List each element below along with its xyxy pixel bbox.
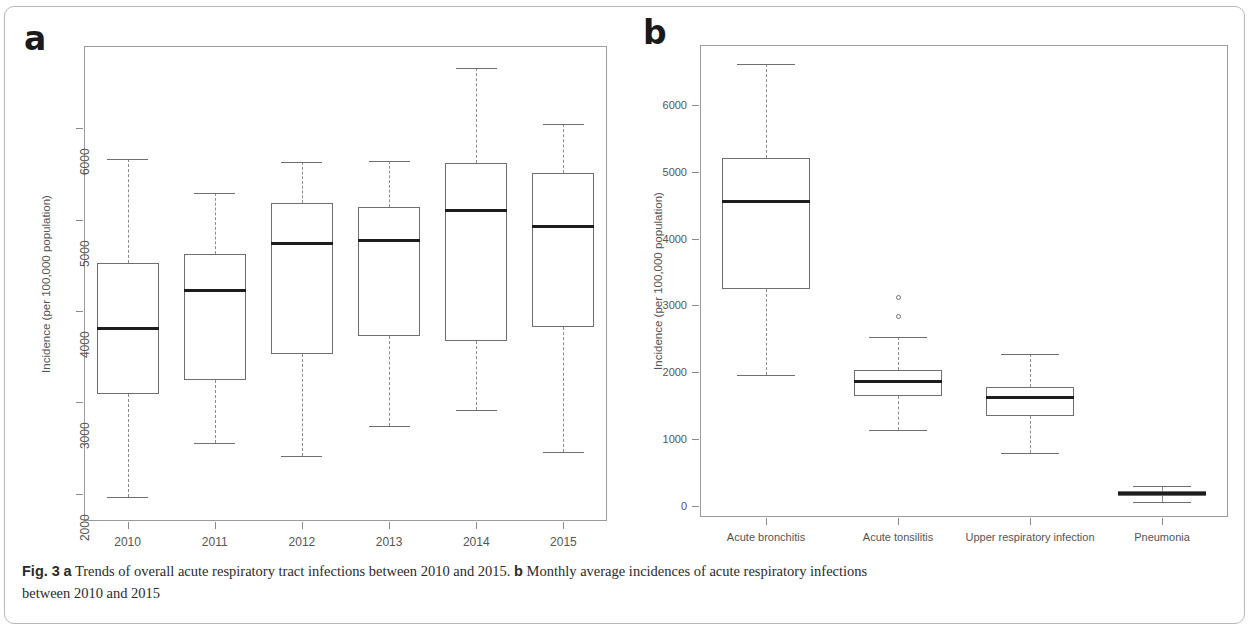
- figure-caption: Fig. 3 a Trends of overall acute respira…: [22, 560, 1227, 605]
- y-tick-mark: [76, 311, 83, 312]
- panel-b-letter: b: [643, 16, 667, 49]
- median-line: [854, 380, 942, 383]
- y-tick-mark: [692, 239, 699, 240]
- x-tick-mark: [1030, 518, 1031, 525]
- box: [445, 163, 507, 341]
- whisker-cap-upper: [543, 124, 584, 125]
- x-tick-label: 2012: [289, 535, 316, 549]
- caption-marker-a: a: [64, 563, 72, 579]
- median-line: [184, 289, 246, 292]
- whisker-cap-upper: [281, 162, 322, 163]
- whisker-upper: [389, 161, 390, 207]
- caption-line-2: between 2010 and 2015: [22, 582, 1227, 604]
- box: [358, 207, 420, 337]
- whisker-upper: [1030, 354, 1031, 387]
- whisker-cap-lower: [737, 375, 795, 376]
- outlier-point: [896, 295, 901, 300]
- whisker-lower: [389, 336, 390, 426]
- y-tick-mark: [76, 128, 83, 129]
- x-tick-label: 2014: [463, 535, 490, 549]
- y-tick-label: 3000: [663, 299, 687, 311]
- x-tick-mark: [302, 522, 303, 529]
- median-line: [532, 225, 594, 228]
- whisker-cap-upper: [456, 68, 497, 69]
- whisker-cap-lower: [456, 410, 497, 411]
- figure-3: a Incidence (per 100,000 population) 200…: [0, 0, 1251, 630]
- x-tick-label: Acute tonsilitis: [863, 531, 933, 543]
- median-line: [358, 239, 420, 242]
- y-axis-title: Incidence (per 100,000 population): [652, 192, 664, 370]
- y-tick-mark: [692, 305, 699, 306]
- whisker-cap-lower: [1133, 502, 1191, 503]
- box: [854, 370, 942, 396]
- x-tick-mark: [128, 522, 129, 529]
- whisker-upper: [563, 124, 564, 173]
- x-tick-mark: [1162, 518, 1163, 525]
- whisker-cap-upper: [1133, 486, 1191, 487]
- x-tick-label: 2010: [114, 535, 141, 549]
- y-tick-mark: [692, 172, 699, 173]
- x-tick-label: 2011: [202, 535, 228, 549]
- whisker-lower: [766, 289, 767, 375]
- whisker-cap-upper: [869, 337, 927, 338]
- whisker-lower: [128, 394, 129, 497]
- whisker-cap-upper: [1001, 354, 1059, 355]
- box: [271, 203, 333, 354]
- median-line: [722, 200, 810, 203]
- y-axis-title: Incidence (per 100,000 population): [40, 195, 52, 373]
- x-tick-mark: [563, 522, 564, 529]
- y-tick-label: 0: [681, 500, 687, 512]
- median-line: [271, 242, 333, 245]
- x-tick-mark: [476, 522, 477, 529]
- whisker-lower: [563, 327, 564, 451]
- whisker-upper: [302, 162, 303, 203]
- y-tick-mark: [692, 506, 699, 507]
- whisker-lower: [215, 380, 216, 443]
- whisker-cap-upper: [737, 64, 795, 65]
- panel-a-plot-area: [84, 46, 607, 521]
- caption-text-a: Trends of overall acute respiratory trac…: [72, 563, 515, 579]
- median-line: [1118, 492, 1206, 495]
- whisker-upper: [766, 64, 767, 158]
- y-tick-mark: [692, 372, 699, 373]
- whisker-cap-lower: [543, 452, 584, 453]
- y-tick-label: 2000: [78, 514, 92, 541]
- y-tick-label: 6000: [663, 99, 687, 111]
- whisker-cap-upper: [194, 193, 235, 194]
- x-tick-mark: [215, 522, 216, 529]
- whisker-lower: [476, 341, 477, 410]
- x-tick-label: Acute bronchitis: [727, 531, 805, 543]
- box: [722, 158, 810, 289]
- whisker-lower: [1030, 416, 1031, 453]
- x-tick-mark: [898, 518, 899, 525]
- whisker-upper: [476, 68, 477, 163]
- whisker-lower: [302, 354, 303, 456]
- y-tick-label: 2000: [663, 366, 687, 378]
- y-tick-mark: [76, 220, 83, 221]
- median-line: [986, 396, 1074, 399]
- caption-text-b: Monthly average incidences of acute resp…: [523, 563, 867, 579]
- y-tick-label: 3000: [78, 423, 92, 450]
- y-tick-mark: [76, 402, 83, 403]
- y-tick-label: 4000: [78, 331, 92, 358]
- panel-a: a Incidence (per 100,000 population) 200…: [0, 0, 625, 560]
- whisker-cap-upper: [107, 159, 148, 160]
- x-tick-mark: [766, 518, 767, 525]
- caption-marker-b: b: [514, 563, 523, 579]
- box: [986, 387, 1074, 416]
- box: [184, 254, 246, 380]
- x-tick-label: 2013: [376, 535, 403, 549]
- median-line: [445, 209, 507, 212]
- y-tick-label: 6000: [78, 149, 92, 176]
- x-tick-label: Upper respiratory infection: [965, 531, 1094, 543]
- outlier-point: [896, 314, 901, 319]
- whisker-cap-lower: [194, 443, 235, 444]
- whisker-cap-lower: [369, 426, 410, 427]
- y-tick-mark: [76, 494, 83, 495]
- whisker-upper: [898, 337, 899, 370]
- y-tick-label: 5000: [78, 240, 92, 267]
- whisker-cap-upper: [369, 161, 410, 162]
- whisker-cap-lower: [869, 430, 927, 431]
- y-tick-label: 5000: [663, 166, 687, 178]
- whisker-lower: [898, 396, 899, 429]
